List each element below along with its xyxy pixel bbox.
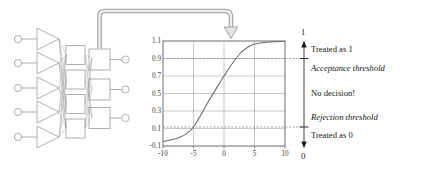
y-tick-label: 0.7 — [141, 73, 161, 80]
scale-bottom-label: 0 — [301, 152, 305, 161]
scale-top-label: 1 — [301, 28, 305, 37]
x-tick-label: -10 — [152, 151, 174, 158]
band-label-treated-as-0: Treated as 0 — [311, 131, 353, 140]
band-label-treated-as-1: Treated as 1 — [311, 45, 353, 54]
figure-artwork — [0, 0, 429, 171]
y-tick-label: 0.3 — [141, 108, 161, 115]
x-tick-label: -5 — [183, 151, 204, 158]
y-tick-label: 1.1 — [141, 38, 161, 45]
figure-root: 1.1 0.9 0.7 0.5 0.3 0.1 -0.1 -10 -5 0 5 … — [0, 0, 429, 171]
y-tick-label: 0.9 — [141, 56, 161, 63]
output-node-circle — [110, 56, 129, 122]
band-label-acceptance-threshold: Acceptance threshold — [311, 64, 385, 73]
output-connections — [85, 55, 92, 128]
neural-network-diagram — [14, 28, 129, 148]
y-tick-label: 0.5 — [141, 91, 161, 98]
decision-scale-axis — [300, 41, 309, 148]
x-tick-label: 10 — [275, 151, 295, 158]
band-label-no-decision: No decision! — [311, 89, 355, 98]
x-tick-label: 5 — [245, 151, 265, 158]
x-tick-label: 0 — [214, 151, 234, 158]
input-node-circle — [14, 35, 37, 140]
hidden-connections — [59, 39, 66, 137]
y-tick-label: 0.1 — [141, 126, 161, 133]
sigmoid-chart — [163, 41, 304, 149]
band-label-rejection-threshold: Rejection threshold — [311, 113, 378, 122]
square-unit — [66, 46, 85, 139]
triangle-unit — [37, 28, 59, 148]
